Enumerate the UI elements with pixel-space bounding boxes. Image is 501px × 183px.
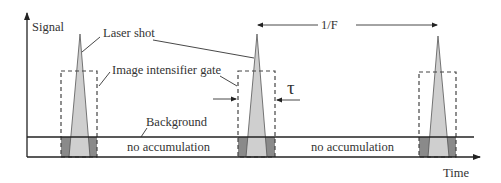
period-label: 1/F xyxy=(321,18,338,32)
no-accumulation-label-2: no accumulation xyxy=(311,140,395,154)
laser-pulse xyxy=(69,34,90,157)
gate-leader-1 xyxy=(99,72,110,86)
x-axis-label: Time xyxy=(443,166,469,180)
pulse-3 xyxy=(419,36,456,157)
no-accumulation-label-1: no accumulation xyxy=(127,140,211,154)
pulse-2 xyxy=(238,34,275,157)
laser-gating-diagram: Signal Time Laser shot Image intensifier… xyxy=(0,0,501,183)
laser-pulse xyxy=(428,36,449,157)
gate-label: Image intensifier gate xyxy=(112,63,221,77)
background-leader xyxy=(141,128,147,137)
laser-shot-label: Laser shot xyxy=(103,26,155,40)
laser-shot-leader-2 xyxy=(153,40,254,58)
laser-pulse xyxy=(246,34,267,157)
tau-label: τ xyxy=(287,77,295,98)
pulse-1 xyxy=(61,34,97,157)
laser-shot-leader-1 xyxy=(82,37,100,52)
background-label: Background xyxy=(146,115,208,129)
gate-leader-2 xyxy=(220,76,237,86)
y-axis-label: Signal xyxy=(32,20,64,34)
